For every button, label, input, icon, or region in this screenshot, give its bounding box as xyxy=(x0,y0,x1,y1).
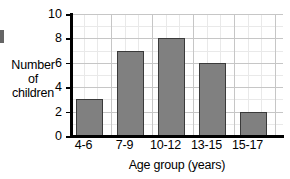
x-tick-label-4-6: 4-6 xyxy=(61,139,106,152)
y-tick-2 xyxy=(66,112,71,114)
x-tick-label-7-9: 7-9 xyxy=(102,139,147,152)
y-tick-6 xyxy=(66,63,71,65)
y-tick-label-2: 2 xyxy=(42,106,62,118)
y-tick-label-6: 6 xyxy=(42,57,62,69)
x-tick-label-15-17: 15-17 xyxy=(225,139,270,152)
y-tick-0 xyxy=(66,136,71,138)
bar-13-15 xyxy=(199,63,226,136)
bar-10-12 xyxy=(158,38,185,136)
x-axis-title: Age group (years) xyxy=(70,158,284,172)
y-tick-label-8: 8 xyxy=(42,32,62,44)
bar-4-6 xyxy=(76,99,103,136)
plot-area xyxy=(70,14,283,136)
y-tick-8 xyxy=(66,38,71,40)
cropped-edge-artifact xyxy=(0,30,4,43)
y-tick-label-0: 0 xyxy=(42,130,62,142)
y-axis-line xyxy=(70,13,73,137)
x-tick-label-13-15: 13-15 xyxy=(184,139,229,152)
y-tick-label-10: 10 xyxy=(42,8,62,20)
y-tick-label-4: 4 xyxy=(42,81,62,93)
x-tick-label-10-12: 10-12 xyxy=(143,139,188,152)
bar-15-17 xyxy=(240,112,267,136)
y-tick-4 xyxy=(66,87,71,89)
bar-chart-figure: Number of children 10 8 6 4 2 0 4-6 7-9 … xyxy=(0,0,290,179)
y-tick-10 xyxy=(66,14,71,16)
bar-7-9 xyxy=(117,51,144,136)
